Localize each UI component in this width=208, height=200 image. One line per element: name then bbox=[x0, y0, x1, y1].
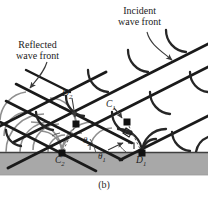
point-label-C1: C1 bbox=[106, 99, 116, 111]
angle-arc-theta1 bbox=[120, 146, 126, 152]
node-C1 bbox=[124, 119, 131, 126]
point-label-D1-subscript: 1 bbox=[143, 160, 146, 167]
huygens-wavelet-arc bbox=[172, 132, 190, 151]
point-label-D2: D2 bbox=[62, 88, 72, 100]
angle-label-theta1: θ1 bbox=[98, 152, 106, 164]
huygens-reflection-figure: Incident wave front Reflected wave front… bbox=[0, 0, 208, 200]
point-label-C2: C2 bbox=[55, 155, 65, 167]
point-label-D1: D1 bbox=[136, 155, 146, 167]
point-label-D2-letter: D bbox=[62, 88, 69, 98]
annotation-incident-line1: Incident bbox=[123, 5, 156, 16]
huygens-wavelet-arc bbox=[128, 50, 148, 72]
point-label-D1-letter: D bbox=[136, 155, 143, 165]
huygens-wavelet-arc bbox=[142, 129, 166, 153]
angle-label-theta1-subscript: 1 bbox=[102, 156, 105, 163]
annotation-incident-wave-front: Incident wave front bbox=[118, 6, 161, 28]
figure-caption: (b) bbox=[0, 180, 208, 191]
annotation-reflected-line1: Reflected bbox=[18, 39, 56, 50]
node-D2 bbox=[73, 121, 80, 128]
huygens-wavelet-arc bbox=[196, 137, 208, 152]
annotation-incident-line2: wave front bbox=[118, 16, 161, 27]
gray-wavelet-arc bbox=[4, 112, 28, 136]
figure-canvas bbox=[0, 0, 208, 200]
point-label-D2-subscript: 2 bbox=[69, 93, 72, 100]
annotation-reflected-wave-front: Reflected wave front bbox=[16, 40, 59, 62]
point-label-C2-subscript: 2 bbox=[61, 160, 64, 167]
point-label-C1-subscript: 1 bbox=[112, 104, 115, 111]
annotation-reflected-line2: wave front bbox=[16, 50, 59, 61]
angle-label-theta2: θ2 bbox=[83, 136, 91, 148]
angle-label-theta2-subscript: 2 bbox=[87, 140, 90, 147]
leader-line-incident bbox=[147, 32, 172, 60]
huygens-wavelet-arc bbox=[166, 30, 186, 52]
